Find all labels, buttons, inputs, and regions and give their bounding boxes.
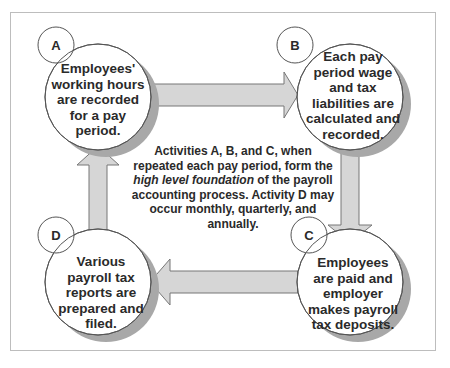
arrow-c-to-d xyxy=(150,259,298,305)
node-c-text: Employees are paid and employer makes pa… xyxy=(300,255,406,333)
arrow-d-to-a xyxy=(77,146,119,233)
node-d-text: Various payroll tax reports are prepared… xyxy=(48,254,154,332)
node-d-letter: D xyxy=(46,229,66,242)
node-a-letter: A xyxy=(46,39,66,52)
center-note: Activities A, B, and C, when repeated ea… xyxy=(128,144,338,231)
node-a-text: Employees' working hours are recorded fo… xyxy=(48,61,148,139)
node-b-text: Each pay period wage and tax liabilities… xyxy=(298,49,408,142)
center-note-emphasis: high level foundation xyxy=(133,173,254,187)
arrow-a-to-b xyxy=(148,72,298,118)
